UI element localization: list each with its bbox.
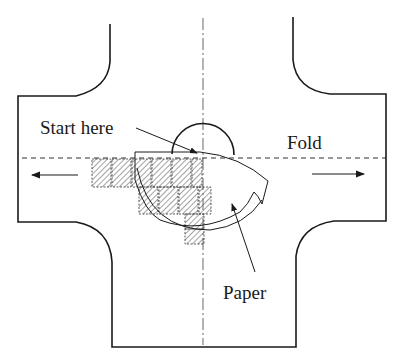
fold-label: Fold xyxy=(287,132,322,153)
start-label: Start here xyxy=(40,117,113,138)
folding-diagram: Start here Fold Paper xyxy=(0,0,401,362)
start-pointer xyxy=(136,128,197,153)
hatched-squares xyxy=(92,159,211,244)
paper-label: Paper xyxy=(223,282,267,303)
paper-pointer xyxy=(232,204,255,272)
